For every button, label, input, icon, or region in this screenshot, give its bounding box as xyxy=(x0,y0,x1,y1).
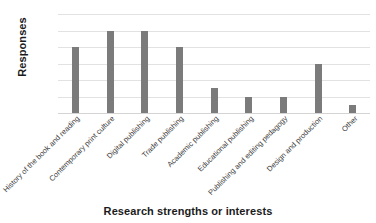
bar-slot xyxy=(301,14,336,113)
bar[interactable] xyxy=(280,97,287,114)
x-axis-tick-label: Other xyxy=(339,114,359,134)
x-axis-tick-labels: History of the book and readingContempor… xyxy=(58,114,370,198)
bar-slot xyxy=(266,14,301,113)
x-axis-tick-label: Contemporary print culture xyxy=(47,114,116,183)
bar-series xyxy=(58,14,370,113)
bar[interactable] xyxy=(349,105,356,113)
bar[interactable] xyxy=(245,97,252,114)
bar[interactable] xyxy=(315,64,322,114)
x-axis-title: Research strengths or interests xyxy=(0,205,376,217)
y-axis-title: Responses xyxy=(16,2,28,92)
bar[interactable] xyxy=(141,31,148,114)
bar[interactable] xyxy=(211,88,218,113)
bar[interactable] xyxy=(176,47,183,113)
bar-chart: Responses 024681012 History of the book … xyxy=(0,0,376,223)
bar-slot xyxy=(162,14,197,113)
bar[interactable] xyxy=(72,47,79,113)
bar-slot xyxy=(231,14,266,113)
bar-slot xyxy=(197,14,232,113)
plot-area: 024681012 xyxy=(58,14,370,113)
bar-slot xyxy=(58,14,93,113)
bar[interactable] xyxy=(107,31,114,114)
bar-slot xyxy=(93,14,128,113)
bar-slot xyxy=(335,14,370,113)
bar-slot xyxy=(127,14,162,113)
